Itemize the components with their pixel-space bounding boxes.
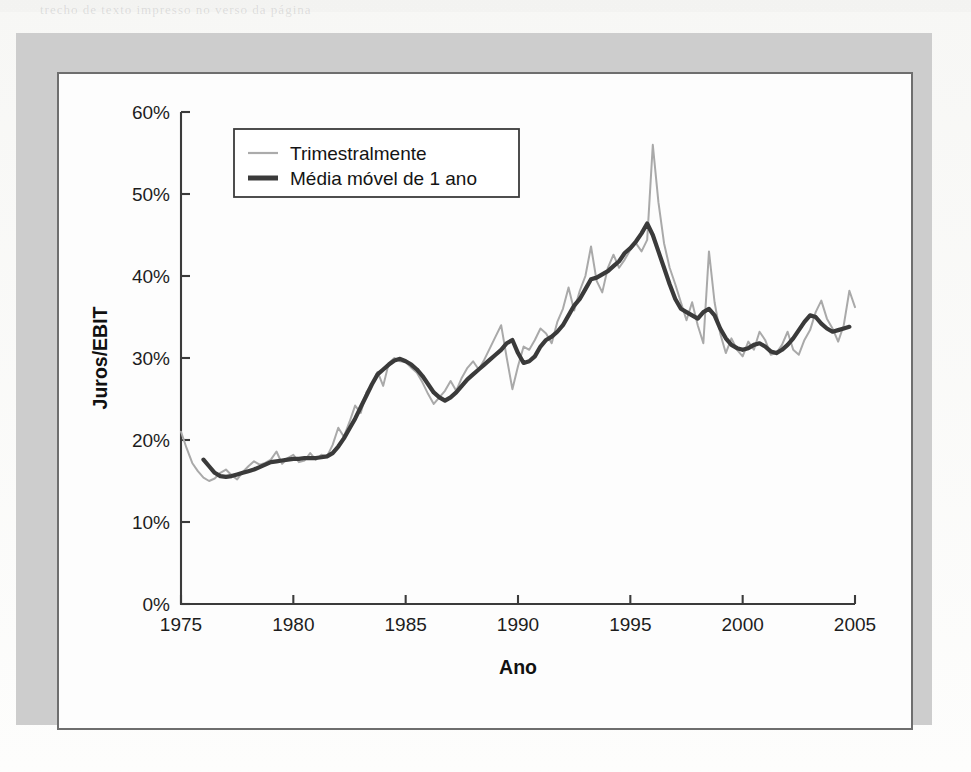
y-tick-label-30: 30%	[132, 348, 170, 369]
y-tick-label-60: 60%	[132, 102, 170, 123]
x-axis-title: Ano	[499, 656, 537, 678]
x-tick-label-1990: 1990	[497, 614, 539, 635]
y-tick-label-50: 50%	[132, 184, 170, 205]
figure-outer-frame: 0%10%20%30%40%50%60%19751980198519901995…	[16, 33, 932, 725]
interest-ebit-line-chart: 0%10%20%30%40%50%60%19751980198519901995…	[16, 33, 932, 725]
ghost-text-top: trecho de texto impresso no verso da pág…	[40, 2, 312, 18]
y-tick-label-40: 40%	[132, 266, 170, 287]
legend-label-trimestralmente: Trimestralmente	[290, 143, 427, 164]
series-line-media-movel	[203, 224, 849, 477]
x-tick-label-2000: 2000	[722, 614, 764, 635]
x-tick-label-1980: 1980	[272, 614, 314, 635]
y-axis-title: Juros/EBIT	[89, 306, 111, 409]
y-tick-label-10: 10%	[132, 512, 170, 533]
y-tick-label-20: 20%	[132, 430, 170, 451]
chart-plot-area: 0%10%20%30%40%50%60%19751980198519901995…	[16, 33, 932, 725]
y-tick-label-0: 0%	[143, 594, 171, 615]
x-tick-label-2005: 2005	[834, 614, 876, 635]
legend-label-media-movel: Média móvel de 1 ano	[290, 168, 477, 189]
x-tick-label-1975: 1975	[160, 614, 202, 635]
x-tick-label-1995: 1995	[609, 614, 651, 635]
x-tick-label-1985: 1985	[385, 614, 427, 635]
chart-legend: TrimestralmenteMédia móvel de 1 ano	[234, 129, 519, 197]
